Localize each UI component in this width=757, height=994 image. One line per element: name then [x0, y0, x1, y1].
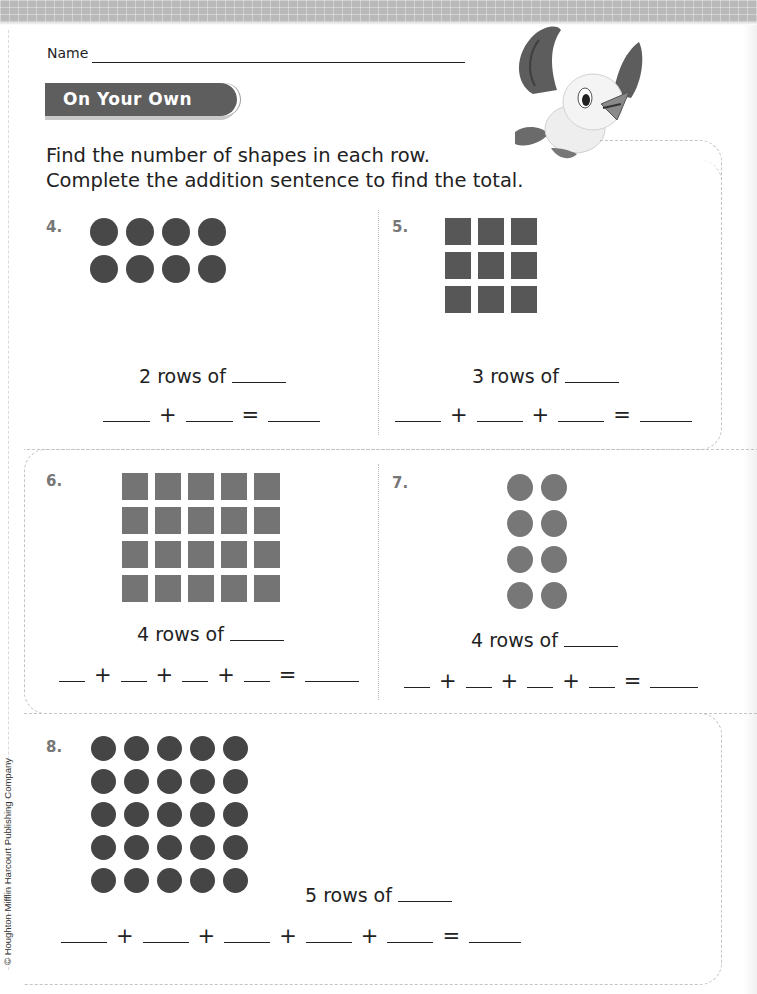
square-shape	[445, 218, 471, 245]
addend-blank[interactable]	[61, 942, 107, 943]
addend-blank[interactable]	[306, 942, 352, 943]
circle-shape	[91, 736, 116, 761]
square-shape	[221, 541, 247, 568]
problem-4-addition-sentence: + =	[100, 404, 323, 426]
name-label: Name	[47, 45, 88, 61]
addend-blank[interactable]	[466, 687, 492, 688]
addend-blank[interactable]	[527, 687, 553, 688]
equals-sign: =	[613, 404, 631, 426]
problem-5-number: 5.	[392, 218, 408, 236]
plus-sign: +	[198, 925, 216, 947]
circle-shape	[91, 769, 116, 794]
square-shape	[122, 473, 148, 500]
problem-7-rows-prompt: 4 rows of	[471, 629, 618, 651]
addend-blank[interactable]	[404, 687, 430, 688]
problem-8-row-count-blank[interactable]	[398, 901, 452, 902]
name-field[interactable]	[92, 62, 465, 63]
plus-sign: +	[450, 404, 468, 426]
circle-shape	[223, 835, 248, 860]
circle-shape	[223, 868, 248, 893]
circle-shape	[157, 802, 182, 827]
addend-blank[interactable]	[395, 421, 441, 422]
circle-shape	[124, 736, 149, 761]
square-shape	[188, 575, 214, 602]
problem-8-rows-prompt: 5 rows of	[305, 884, 452, 906]
square-shape	[254, 507, 280, 534]
circle-shape	[507, 474, 533, 501]
square-shape	[445, 286, 471, 313]
addend-blank[interactable]	[387, 942, 433, 943]
addend-blank[interactable]	[244, 681, 270, 682]
plus-sign: +	[279, 925, 297, 947]
problem-4-number: 4.	[46, 218, 62, 236]
problem-4-row-count-blank[interactable]	[232, 382, 286, 383]
circle-shape	[190, 736, 215, 761]
circle-shape	[162, 218, 190, 246]
addend-blank[interactable]	[224, 942, 270, 943]
sum-blank[interactable]	[305, 681, 359, 682]
circle-shape	[90, 255, 118, 283]
problem-7-row-count-blank[interactable]	[564, 646, 618, 647]
sum-blank[interactable]	[640, 421, 692, 422]
square-shape	[188, 473, 214, 500]
circle-shape	[157, 868, 182, 893]
circle-shape	[223, 736, 248, 761]
copyright-notice: © Houghton Mifflin Harcourt Publishing C…	[2, 758, 13, 965]
square-shape	[221, 473, 247, 500]
addend-blank[interactable]	[558, 421, 604, 422]
square-shape	[155, 473, 181, 500]
equals-sign: =	[442, 925, 460, 947]
problem-4-rows-prompt: 2 rows of	[139, 365, 286, 387]
decorative-header-band	[0, 0, 757, 22]
square-shape	[122, 575, 148, 602]
square-shape	[155, 575, 181, 602]
plus-sign: +	[116, 925, 134, 947]
square-shape	[254, 473, 280, 500]
circle-shape	[126, 255, 154, 283]
circle-shape	[91, 802, 116, 827]
rows-prompt-text: 4 rows of	[137, 623, 224, 645]
circle-shape	[541, 510, 567, 537]
problem-5-rows-prompt: 3 rows of	[472, 365, 619, 387]
addend-blank[interactable]	[477, 421, 523, 422]
addend-blank[interactable]	[589, 687, 615, 688]
rows-prompt-text: 4 rows of	[471, 629, 558, 651]
circle-shape	[124, 835, 149, 860]
circle-shape	[541, 582, 567, 609]
square-shape	[478, 286, 504, 313]
addend-blank[interactable]	[186, 421, 233, 422]
problem-7-number: 7.	[392, 474, 408, 492]
square-shape	[221, 575, 247, 602]
section-title-ribbon: On Your Own	[45, 83, 237, 116]
plus-sign: +	[532, 404, 550, 426]
sum-blank[interactable]	[650, 687, 698, 688]
square-shape	[122, 507, 148, 534]
circle-shape	[198, 255, 226, 283]
circle-shape	[507, 510, 533, 537]
problem-6-row-count-blank[interactable]	[230, 640, 284, 641]
addend-blank[interactable]	[59, 681, 85, 682]
circle-shape	[190, 769, 215, 794]
problem-divider-2	[378, 464, 379, 700]
plus-sign: +	[159, 404, 177, 426]
square-shape	[478, 218, 504, 245]
circle-shape	[157, 736, 182, 761]
circle-shape	[90, 218, 118, 246]
addend-blank[interactable]	[121, 681, 147, 682]
rows-prompt-text: 2 rows of	[139, 365, 226, 387]
problem-5-row-count-blank[interactable]	[565, 382, 619, 383]
problem-7-shape-array	[507, 474, 567, 609]
circle-shape	[507, 582, 533, 609]
problem-8-addition-sentence: + + + + =	[58, 925, 524, 947]
addend-blank[interactable]	[182, 681, 208, 682]
circle-shape	[124, 769, 149, 794]
circle-shape	[198, 218, 226, 246]
circle-shape	[541, 546, 567, 573]
sum-blank[interactable]	[469, 942, 521, 943]
sum-blank[interactable]	[268, 421, 320, 422]
addend-blank[interactable]	[103, 421, 150, 422]
circle-shape	[126, 218, 154, 246]
square-shape	[254, 541, 280, 568]
circle-shape	[124, 868, 149, 893]
addend-blank[interactable]	[143, 942, 189, 943]
